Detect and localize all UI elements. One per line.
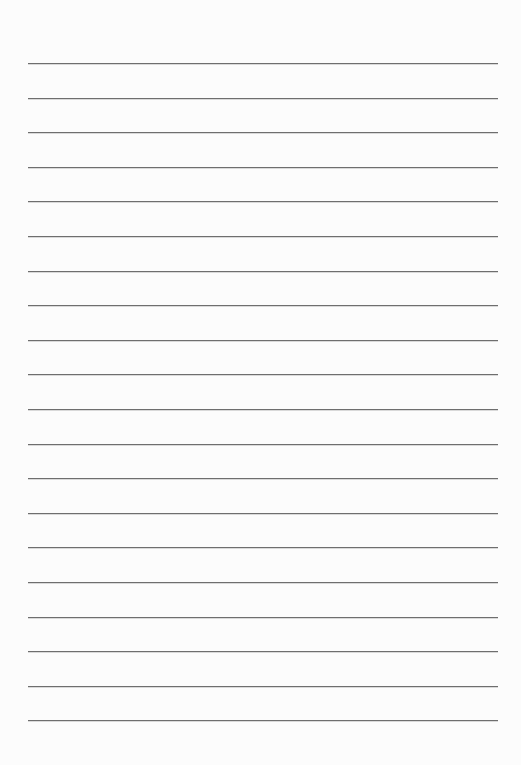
ruled-line [28, 374, 498, 375]
ruled-line [28, 478, 498, 479]
ruled-line [28, 547, 498, 548]
ruled-line [28, 409, 498, 410]
ruled-line [28, 720, 498, 721]
ruled-line [28, 651, 498, 652]
ruled-line [28, 444, 498, 445]
ruled-line [28, 271, 498, 272]
lined-paper-page [0, 0, 521, 765]
ruled-line [28, 340, 498, 341]
ruled-line [28, 305, 498, 306]
ruled-line [28, 98, 498, 99]
ruled-line [28, 617, 498, 618]
ruled-line [28, 236, 498, 237]
ruled-line [28, 513, 498, 514]
ruled-line [28, 132, 498, 133]
ruled-line [28, 63, 498, 64]
ruled-line [28, 686, 498, 687]
ruled-line [28, 201, 498, 202]
ruled-line [28, 582, 498, 583]
ruled-line [28, 167, 498, 168]
